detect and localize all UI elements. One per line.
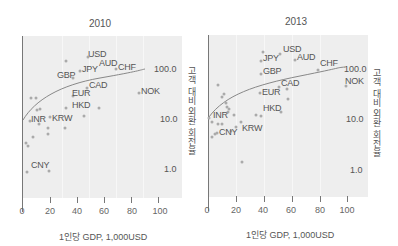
y-tick-10: 10.0 <box>160 114 178 124</box>
chart-2013: 2013 USD JPY AUD CHF GBP CAD EUR NOK HKD <box>200 0 398 246</box>
point-label-nok: NOK <box>345 76 364 86</box>
x-tick-20: 20 <box>231 205 241 215</box>
x-tick-40: 40 <box>72 206 82 216</box>
data-point <box>211 121 214 124</box>
y-tick-100: 100.0 <box>344 64 367 74</box>
point-label-eur: EUR <box>262 87 280 97</box>
point-label-krw: KRW <box>52 113 72 123</box>
data-point <box>255 114 258 117</box>
data-point <box>233 114 236 117</box>
data-point <box>30 97 33 100</box>
x-tick-0: 0 <box>204 205 209 215</box>
point-label-cny: CNY <box>219 127 237 137</box>
x-tick-40: 40 <box>258 205 268 215</box>
point-label-eur: EUR <box>72 88 90 98</box>
x-tick-100: 100 <box>339 205 354 215</box>
data-point <box>47 133 50 136</box>
x-axis-title-2013: 1인당 GDP, 1,000USD <box>246 228 334 241</box>
data-point <box>64 127 67 130</box>
x-tick-80: 80 <box>315 205 325 215</box>
data-point <box>287 98 290 101</box>
point-label-hkd: HKD <box>72 100 90 110</box>
point-label-aud: AUD <box>99 58 117 68</box>
x-tick-100: 100 <box>152 206 167 216</box>
y-tick-100: 100.0 <box>154 64 177 74</box>
point-label-inr: INR <box>213 110 228 120</box>
y-tick-1: 1.0 <box>164 164 177 174</box>
data-point <box>32 136 35 139</box>
y-tick-10: 10.0 <box>346 114 364 124</box>
point-label-aud: AUD <box>297 52 315 62</box>
x-axis-title-2010: 1인당 GDP, 1,000USD <box>59 230 147 243</box>
data-point <box>27 145 30 148</box>
data-point <box>208 117 211 120</box>
data-point <box>211 136 214 139</box>
trendline-2013 <box>200 0 398 246</box>
x-tick-0: 0 <box>19 206 24 216</box>
point-label-krw: KRW <box>242 123 262 133</box>
data-point <box>39 108 42 111</box>
chart-2010: 2010 USD JPY AUD CHF GBP CAD EUR NOK HKD… <box>0 0 200 246</box>
data-point <box>83 115 86 118</box>
x-tick-20: 20 <box>45 206 55 216</box>
data-point <box>221 123 224 126</box>
point-label-nok: NOK <box>141 86 160 96</box>
point-label-chf: CHF <box>118 62 136 72</box>
y-tick-1: 1.0 <box>350 165 363 175</box>
data-point <box>225 102 228 105</box>
point-label-gbp: GBP <box>57 70 75 80</box>
data-point <box>221 96 224 99</box>
data-point <box>98 107 101 110</box>
point-label-cad: CAD <box>89 80 107 90</box>
data-point <box>35 97 38 100</box>
point-label-cad: CAD <box>281 78 299 88</box>
data-point <box>65 60 68 63</box>
data-point <box>65 107 68 110</box>
point-label-jpy: JPY <box>263 53 279 63</box>
x-tick-80: 80 <box>127 206 137 216</box>
data-point <box>260 115 263 118</box>
point-label-inr: INR <box>31 114 46 124</box>
x-tick-60: 60 <box>99 206 109 216</box>
point-label-cny: CNY <box>31 160 49 170</box>
point-label-gbp: GBP <box>263 66 281 76</box>
x-tick-60: 60 <box>286 205 296 215</box>
data-point <box>26 171 29 174</box>
data-point <box>217 84 220 87</box>
y-axis-title-2013: 고객 대비 외환 회전율 <box>370 68 383 157</box>
point-label-hkd: HKD <box>263 103 281 113</box>
data-point <box>241 161 244 164</box>
point-label-chf: CHF <box>320 58 338 68</box>
y-axis-title-2010: 고객 대비 외환 회전율 <box>185 66 198 155</box>
data-point <box>47 127 50 130</box>
data-point <box>217 123 220 126</box>
data-point <box>317 69 320 72</box>
point-label-jpy: JPY <box>82 64 98 74</box>
